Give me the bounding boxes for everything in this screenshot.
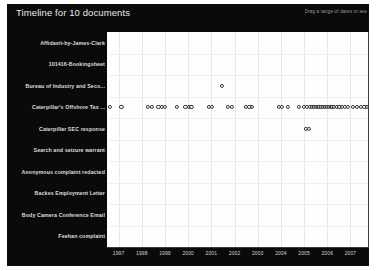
row-separator — [107, 97, 368, 98]
page-title: Timeline for 10 documents — [16, 7, 130, 18]
x-tick-label: 2000 — [182, 250, 194, 256]
data-point[interactable] — [346, 105, 350, 109]
drag-range-hint: Drag a range of dates to see — [305, 9, 367, 14]
x-tick-label: 2007 — [345, 250, 357, 256]
row-separator — [107, 75, 368, 76]
data-point[interactable] — [108, 105, 112, 109]
data-point[interactable] — [365, 105, 369, 109]
data-point[interactable] — [189, 105, 193, 109]
x-tick-label: 2005 — [298, 250, 310, 256]
data-point[interactable] — [175, 105, 179, 109]
data-point[interactable] — [250, 105, 254, 109]
timeline-screenshot: Timeline for 10 documents Drag a range o… — [0, 0, 376, 271]
timeline-panel: Timeline for 10 documents Drag a range o… — [7, 4, 369, 266]
x-tick-label: 2006 — [321, 250, 333, 256]
x-axis-line — [107, 247, 369, 248]
panel-header: Timeline for 10 documents Drag a range o… — [7, 4, 369, 24]
data-point[interactable] — [307, 127, 311, 131]
row-separator — [107, 183, 368, 184]
y-axis-label: Bureau of Industry and Seco... — [25, 83, 105, 89]
y-axis-label: Backes Employment Letter — [35, 190, 105, 196]
y-axis-label: Feehan complaint — [58, 233, 105, 239]
row-separator — [107, 118, 368, 119]
data-point[interactable] — [286, 105, 290, 109]
x-tick-label: 2001 — [206, 250, 218, 256]
plot-area[interactable] — [107, 32, 369, 247]
x-tick-label: 2003 — [252, 250, 264, 256]
y-axis-label: Search and seizure warrant — [34, 147, 106, 153]
data-point[interactable] — [230, 105, 234, 109]
data-point[interactable] — [150, 105, 154, 109]
data-point[interactable] — [210, 105, 214, 109]
y-axis-label: Anonymous complaint redacted — [22, 169, 105, 175]
y-axis-label: Caterpillar's Offshore Tax ... — [32, 104, 105, 110]
x-tick-label: 2004 — [275, 250, 287, 256]
x-tick-label: 1998 — [136, 250, 148, 256]
data-point[interactable] — [119, 105, 123, 109]
data-point[interactable] — [163, 105, 167, 109]
row-separator — [107, 226, 368, 227]
row-separator — [107, 140, 368, 141]
row-separator — [107, 54, 368, 55]
y-axis-label: Body Camera Conference Email — [22, 212, 105, 218]
row-separator — [107, 204, 368, 205]
data-point[interactable] — [220, 84, 224, 88]
timeline-chart[interactable]: Affidavit-by-James-Clark101416-Bookingsh… — [14, 24, 369, 266]
y-axis-label: Affidavit-by-James-Clark — [40, 40, 105, 46]
y-axis-label: 101416-Bookingsheet — [49, 61, 105, 67]
x-tick-label: 1999 — [159, 250, 171, 256]
data-point[interactable] — [296, 105, 300, 109]
x-tick-label: 1997 — [113, 250, 125, 256]
y-axis-label: Caterpillar SEC response — [39, 126, 105, 132]
x-tick-label: 2002 — [229, 250, 241, 256]
data-point[interactable] — [280, 105, 284, 109]
row-separator — [107, 161, 368, 162]
